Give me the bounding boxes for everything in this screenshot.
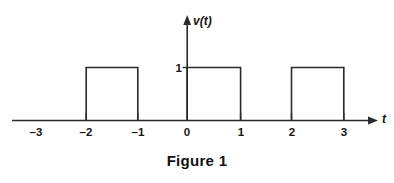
tick-label-2: 2	[289, 126, 295, 138]
x-axis-arrowhead	[368, 117, 378, 125]
x-axis-ticks	[86, 113, 344, 121]
y-amplitude-label: 1	[176, 62, 182, 74]
tick-label-3: 3	[341, 126, 347, 138]
figure-caption: Figure 1	[0, 152, 394, 169]
pulse-waveform-2	[187, 68, 240, 121]
x-axis-label: t	[382, 112, 386, 126]
tick-label-1: 1	[238, 126, 244, 138]
tick-label-neg2: –2	[80, 126, 93, 138]
y-axis-label: v(t)	[193, 14, 212, 28]
pulse-waveform-3	[292, 68, 344, 121]
tick-label-neg3: –3	[30, 126, 43, 138]
y-axis-arrowhead	[183, 15, 191, 25]
tick-label-neg1: –1	[132, 126, 145, 138]
figure-container: –3 –2 –1 0 1 2 3 1 v(t) t Figure 1	[0, 0, 394, 183]
tick-label-0: 0	[184, 126, 190, 138]
pulse-waveform-1	[86, 68, 138, 121]
